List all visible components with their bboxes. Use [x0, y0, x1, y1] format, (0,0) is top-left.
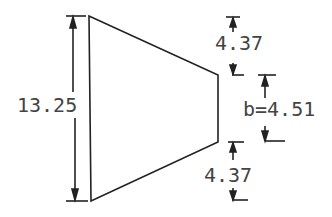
right-width-label: b=4.51 — [243, 97, 315, 121]
trapezoid-shape — [89, 16, 218, 201]
top-offset-label: 4.37 — [215, 31, 263, 55]
bottom-offset-label: 4.37 — [204, 163, 252, 187]
diagram-canvas: 13.25 4.37 b=4.51 4.37 — [0, 0, 332, 217]
left-height-label: 13.25 — [17, 93, 77, 117]
trapezoid-diagram: 13.25 4.37 b=4.51 4.37 — [0, 0, 332, 217]
